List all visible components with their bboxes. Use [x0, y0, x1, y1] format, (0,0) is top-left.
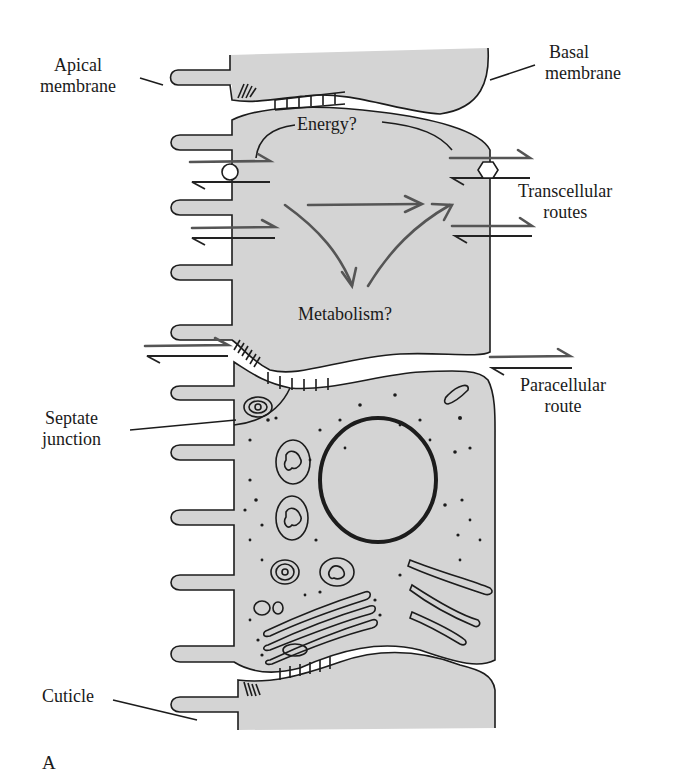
paracellular-route-label-line2: route [520, 396, 606, 417]
transcellular-routes-label: Transcellular routes [518, 181, 612, 223]
septate-junction-label-line2: junction [42, 429, 101, 450]
paracellular-route-label: Paracellular route [520, 375, 606, 417]
apical-membrane-label-line1: Apical [40, 55, 116, 76]
basal-membrane-label-line2: membrane [545, 63, 621, 84]
transcellular-routes-label-line1: Transcellular [518, 181, 612, 202]
basal-membrane-label: Basal membrane [545, 42, 621, 84]
energy-label: Energy? [297, 114, 357, 135]
basal-membrane-label-line1: Basal [545, 42, 621, 63]
bottom-cuticle [171, 653, 495, 730]
metabolism-label: Metabolism? [298, 304, 392, 325]
top-cuticle [171, 48, 489, 114]
transcellular-routes-label-line2: routes [518, 202, 612, 223]
paracellular-route-label-line1: Paracellular [520, 375, 606, 396]
septate-junction-label: Septate junction [42, 408, 101, 450]
apical-membrane-label: Apical membrane [40, 55, 116, 97]
epithelial-transport-diagram: Apical membrane Basal membrane Energy? M… [0, 0, 675, 778]
apical-membrane-label-line2: membrane [40, 76, 116, 97]
cuticle-label: Cuticle [42, 686, 94, 707]
septate-junction-label-line1: Septate [42, 408, 101, 429]
lower-cell [171, 362, 495, 672]
panel-label: A [42, 752, 56, 773]
